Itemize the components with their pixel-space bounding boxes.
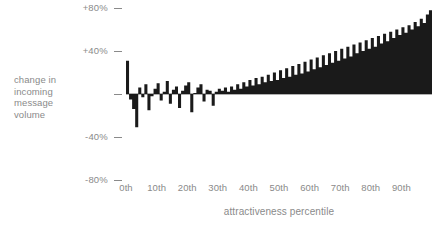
- x-tick-label: 60th: [300, 182, 319, 194]
- y-tick-label: -40%: [48, 132, 108, 142]
- y-tick-label: -80%: [48, 175, 108, 185]
- y-axis-tick-labels: +80%+40%-40%-80%: [48, 0, 108, 235]
- x-tick-label: 30th: [208, 182, 227, 194]
- y-tick-mark: [114, 51, 122, 52]
- y-tick-mark: [114, 8, 122, 9]
- y-tick-mark: [114, 94, 122, 95]
- x-tick-label: 40th: [239, 182, 258, 194]
- x-tick-label: 20th: [178, 182, 197, 194]
- change-in-message-volume-series: [126, 10, 432, 127]
- attractiveness-message-volume-chart: change in incoming message volume +80%+4…: [0, 0, 443, 235]
- y-axis-tick-marks: [114, 0, 126, 235]
- x-tick-label: 10th: [147, 182, 166, 194]
- y-tick-label: +80%: [48, 3, 108, 13]
- plot-area: [126, 8, 432, 180]
- y-tick-mark: [114, 137, 122, 138]
- series-area-path: [126, 8, 432, 180]
- y-tick-label: +40%: [48, 46, 108, 56]
- y-tick-mark: [114, 180, 122, 181]
- x-tick-label: 70th: [331, 182, 350, 194]
- x-tick-label: 50th: [270, 182, 289, 194]
- x-tick-label: 0th: [119, 182, 133, 194]
- x-axis-title: attractiveness percentile: [126, 206, 432, 217]
- x-tick-label: 80th: [361, 182, 380, 194]
- x-tick-label: 90th: [392, 182, 411, 194]
- x-axis-tick-labels: 0th10th20th30th40th50th60th70th80th90th: [126, 182, 432, 198]
